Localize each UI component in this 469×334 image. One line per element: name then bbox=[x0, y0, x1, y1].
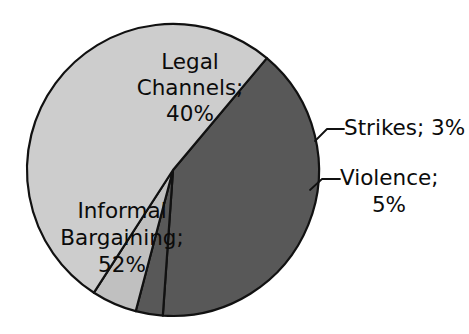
slice-label-legal-channels-line3: 40% bbox=[166, 101, 214, 126]
slice-label-legal-channels-line1: Legal bbox=[161, 49, 219, 74]
slice-label-strikes-line1: Strikes; 3% bbox=[344, 115, 465, 140]
slice-label-violence: Violence; 5% bbox=[340, 165, 438, 217]
slice-label-informal-bargaining-line2: Bargaining; bbox=[60, 225, 183, 250]
slice-label-informal-bargaining-line3: 52% bbox=[98, 252, 146, 277]
leader-line-strikes bbox=[315, 129, 344, 141]
slice-label-strikes: Strikes; 3% bbox=[344, 115, 465, 140]
slice-label-violence-line2: 5% bbox=[372, 192, 406, 217]
pie-chart-canvas: Legal Channels; 40%Strikes; 3%Violence; … bbox=[0, 0, 469, 334]
slice-label-violence-line1: Violence; bbox=[340, 165, 438, 190]
pie-chart-figure: Legal Channels; 40%Strikes; 3%Violence; … bbox=[0, 0, 469, 334]
slice-label-legal-channels-line2: Channels; bbox=[137, 75, 244, 100]
slice-label-informal-bargaining-line1: Informal bbox=[77, 198, 166, 223]
